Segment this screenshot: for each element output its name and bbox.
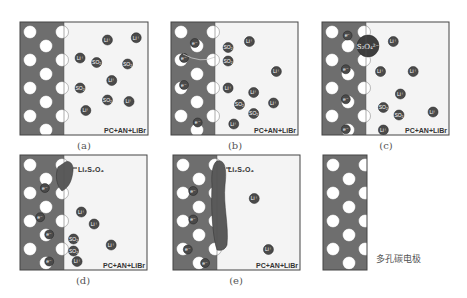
pore (207, 54, 220, 67)
ion-label: Li⁺ (230, 121, 237, 127)
ion-label: Li⁺ (410, 68, 417, 74)
electron-label: e⁻ (185, 246, 191, 252)
electron-label: e⁻ (195, 119, 201, 125)
pore (56, 215, 69, 228)
pore (24, 215, 37, 228)
mechanism-diagram: Li⁺Li⁺Li⁺SO₂SO₂Li⁺SO₂SO₂Li⁺Li⁺ PC+AN+LiB… (0, 0, 467, 298)
pore (359, 243, 372, 256)
ion-label: Li⁺ (82, 107, 89, 113)
pore (209, 271, 222, 284)
ion-label: SO₂ (92, 59, 101, 65)
ion-label: Li⁺ (250, 89, 257, 95)
electron-label: e⁻ (190, 188, 196, 194)
ion-label: Li⁺ (108, 242, 115, 248)
pore (56, 110, 69, 123)
ion-label: Li⁺ (78, 209, 85, 215)
pore (342, 40, 355, 53)
electron-label: e⁻ (202, 260, 208, 266)
ion-label: Li⁺ (390, 38, 397, 44)
electron-label: e⁻ (343, 66, 349, 72)
pore (193, 229, 206, 242)
panel-b-caption: (b) (228, 140, 242, 151)
pore (326, 26, 339, 39)
pore (327, 187, 340, 200)
panel-c-caption: (c) (379, 140, 393, 151)
pore (327, 159, 340, 172)
ion-label: Li⁺ (380, 127, 387, 133)
pore (207, 82, 220, 95)
pore (207, 26, 220, 39)
pore (343, 229, 356, 242)
pore (327, 243, 340, 256)
ion-label: SO₂ (69, 248, 78, 254)
ion-label: Li⁺ (133, 35, 140, 41)
pore (56, 26, 69, 39)
ion-label: Li⁺ (273, 68, 280, 74)
pore (40, 96, 53, 109)
panel-e-caption: (e) (229, 275, 243, 286)
pore (177, 271, 190, 284)
pore (359, 215, 372, 228)
pore (177, 187, 190, 200)
pore (40, 40, 53, 53)
ion-label: Li⁺ (246, 38, 253, 44)
pore (191, 68, 204, 81)
ion-label: Li⁺ (397, 91, 404, 97)
panel-e-solution-label: PC+AN+LiBr (256, 262, 298, 269)
pore (358, 82, 371, 95)
panel-a: Li⁺Li⁺Li⁺SO₂SO₂Li⁺SO₂SO₂Li⁺Li⁺ (20, 22, 148, 137)
ion-label: SO₂ (224, 44, 233, 50)
pore (177, 215, 190, 228)
pore (359, 271, 372, 284)
pore (358, 110, 371, 123)
pore (343, 173, 356, 186)
panel-c: Li⁺Li⁺Li⁺Li⁺SO₂SO₂Li⁺Li⁺e⁻e⁻e⁻e⁻S₂O₄²⁻ (322, 22, 449, 137)
panel-b-solution-label: PC+AN+LiBr (254, 127, 296, 134)
panel-c-solution-label: PC+AN+LiBr (405, 127, 447, 134)
panel-a-caption: (a) (77, 140, 91, 151)
electron-label: e⁻ (190, 216, 196, 222)
electron-label: e⁻ (192, 40, 198, 46)
pore (343, 201, 356, 214)
pore (326, 82, 339, 95)
pore (24, 82, 37, 95)
pore (24, 26, 37, 39)
ion-label: Li⁺ (77, 55, 84, 61)
ion-label: Li⁺ (91, 221, 98, 227)
pore (327, 271, 340, 284)
ion-label: SO₂ (394, 112, 403, 118)
ion-label: SO₂ (103, 97, 112, 103)
electron-label: e⁻ (46, 258, 52, 264)
legend-porous-electrode (323, 155, 372, 284)
pore (327, 215, 340, 228)
pore (193, 201, 206, 214)
ion-label: SO₂ (69, 236, 78, 242)
electron-label: e⁻ (345, 32, 351, 38)
pore (343, 257, 356, 270)
electron-label: e⁻ (37, 214, 43, 220)
pore (40, 68, 53, 81)
ion-label: Li⁺ (74, 258, 81, 264)
electron-label: e⁻ (343, 96, 349, 102)
ion-label: SO₂ (235, 101, 244, 107)
pore (193, 173, 206, 186)
panel-d-product-label: Li₂S₂O₄ (78, 166, 104, 173)
electron-label: e⁻ (46, 231, 52, 237)
panel-e-product-label: Li₂S₂O₄ (228, 166, 254, 173)
ion-label: SO₂ (123, 61, 132, 67)
pore (326, 110, 339, 123)
ion-label: Li⁺ (251, 195, 258, 201)
electron-label: e⁻ (181, 82, 187, 88)
pore (24, 54, 37, 67)
pore (24, 110, 37, 123)
dithionite-ion-label: S₂O₄²⁻ (357, 43, 380, 51)
panel-b: SO₂SO₂Li⁺Li⁺Li⁺Li⁺SO₂Li⁺SO₂Li⁺e⁻e⁻e⁻e⁻ (171, 22, 298, 137)
pore (56, 271, 69, 284)
pore (56, 243, 69, 256)
pore (24, 187, 37, 200)
ion-label: Li⁺ (108, 77, 115, 83)
pore (207, 110, 220, 123)
ion-label: Li⁺ (430, 109, 437, 115)
legend-label: 多孔碳电极 (376, 253, 421, 264)
ion-label: SO₂ (75, 85, 84, 91)
